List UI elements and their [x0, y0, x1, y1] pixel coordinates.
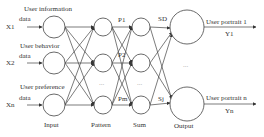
output-node-n	[170, 87, 204, 121]
layer-title-output: Output	[174, 123, 193, 130]
sum-node-2	[132, 54, 150, 72]
input-label-n-line2: data	[19, 95, 31, 102]
pattern-node-2	[94, 54, 112, 72]
input-var-x2: X2	[6, 60, 15, 67]
input-label-1-line1: User information	[24, 6, 72, 13]
pattern-label-pm: Pm	[118, 96, 127, 103]
pattern-node-m	[94, 96, 112, 114]
sum-node-j	[132, 96, 150, 114]
sum-label-sd: SD	[158, 16, 167, 23]
input-label-2-line2: data	[19, 53, 31, 60]
ellipsis-input: ...	[50, 82, 55, 89]
layer-title-pattern: Pattern	[91, 122, 111, 129]
output-label-1: User portrait 1	[206, 19, 247, 26]
input-pattern-connections	[65, 27, 94, 105]
pattern-label-p1: P1	[118, 17, 125, 24]
output-node-1	[170, 10, 204, 44]
pattern-sum-connections	[112, 27, 132, 105]
input-node-n	[43, 94, 65, 116]
input-var-x1: X1	[6, 24, 15, 31]
layer-title-sum: Sum	[133, 122, 146, 129]
layer-title-input: Input	[44, 122, 59, 129]
pattern-node-1	[94, 18, 112, 36]
pattern-label-p2: P2	[118, 52, 125, 59]
ellipsis-sum: ...	[137, 80, 142, 87]
output-var-y1: Y1	[225, 31, 234, 38]
input-label-n-line1: User preference	[20, 84, 65, 91]
output-var-yn: Yn	[225, 108, 234, 115]
output-label-n: User portrait n	[206, 95, 247, 102]
input-var-xn: Xn	[6, 102, 15, 109]
sum-label-sj: Sj	[158, 96, 164, 103]
ellipsis-pattern: ...	[99, 80, 104, 87]
input-node-2	[43, 52, 65, 74]
input-label-2-line1: User behavior	[20, 43, 59, 50]
input-node-1	[43, 16, 65, 38]
sum-output-connections	[150, 27, 172, 105]
ellipsis-output: ...	[183, 62, 188, 69]
sum-node-1	[132, 18, 150, 36]
input-label-1-line2: data	[19, 16, 31, 23]
